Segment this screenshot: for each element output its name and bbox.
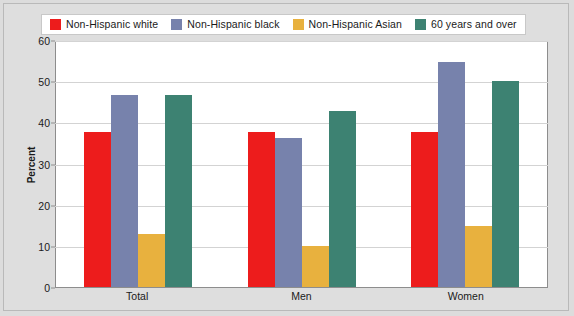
legend-label-non-hispanic-asian: Non-Hispanic Asian: [309, 19, 402, 30]
legend-swatch-red-icon: [50, 19, 61, 30]
bar-total-series-0: [84, 132, 111, 287]
bar-women-series-2: [465, 226, 492, 287]
bar-men-series-1: [275, 138, 302, 287]
legend-label-non-hispanic-black: Non-Hispanic black: [187, 19, 279, 30]
bar-total-series-3: [165, 95, 192, 287]
x-axis-label-total: Total: [55, 290, 219, 302]
x-axis-label-men: Men: [219, 290, 383, 302]
bar-women-series-3: [492, 81, 519, 287]
y-tick-mark-50: [51, 82, 55, 83]
bar-women-series-0: [411, 132, 438, 287]
legend-item-60-years-and-over: 60 years and over: [415, 19, 517, 30]
bar-total-series-2: [138, 234, 165, 287]
y-tick-mark-40: [51, 123, 55, 124]
bar-group-total: [56, 42, 220, 287]
y-tick-label-30: 30: [38, 159, 50, 171]
bar-group-men: [220, 42, 384, 287]
legend-swatch-blue-icon: [171, 19, 182, 30]
y-tick-label-60: 60: [38, 35, 50, 47]
y-axis-title: Percent: [26, 146, 37, 183]
bar-men-series-3: [329, 111, 356, 287]
bar-men-series-0: [248, 132, 275, 287]
y-tick-label-50: 50: [38, 76, 50, 88]
bar-men-series-2: [302, 246, 329, 287]
legend-swatch-gold-icon: [293, 19, 304, 30]
bar-women-series-1: [438, 62, 465, 287]
chart-legend: Non-Hispanic white Non-Hispanic black No…: [41, 14, 526, 35]
legend-label-60-years-and-over: 60 years and over: [431, 19, 517, 30]
x-axis-label-women: Women: [384, 290, 548, 302]
bar-groups: [56, 42, 547, 287]
x-axis-labels: Total Men Women: [55, 290, 548, 302]
y-tick-mark-60: [51, 41, 55, 42]
y-tick-mark-0: [51, 288, 55, 289]
y-tick-label-40: 40: [38, 117, 50, 129]
legend-item-non-hispanic-black: Non-Hispanic black: [171, 19, 279, 30]
plot-wrapper: 0102030405060 Percent: [55, 41, 548, 288]
bar-total-series-1: [111, 95, 138, 287]
y-tick-label-0: 0: [44, 282, 50, 294]
y-tick-mark-10: [51, 246, 55, 247]
bar-group-women: [383, 42, 547, 287]
legend-item-non-hispanic-asian: Non-Hispanic Asian: [293, 19, 402, 30]
y-tick-mark-20: [51, 205, 55, 206]
y-tick-label-10: 10: [38, 241, 50, 253]
legend-label-non-hispanic-white: Non-Hispanic white: [66, 19, 158, 30]
legend-swatch-green-icon: [415, 19, 426, 30]
y-tick-mark-30: [51, 164, 55, 165]
y-tick-label-20: 20: [38, 200, 50, 212]
bar-chart-figure: Non-Hispanic white Non-Hispanic black No…: [0, 0, 574, 316]
legend-item-non-hispanic-white: Non-Hispanic white: [50, 19, 158, 30]
